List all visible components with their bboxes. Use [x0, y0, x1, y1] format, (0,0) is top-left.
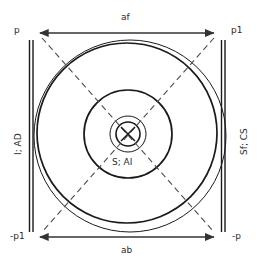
label-ab: ab — [121, 246, 132, 255]
label-negative-p: -p — [232, 232, 241, 241]
right-vertical-bar — [222, 40, 226, 232]
label-left-axis: I; AD — [14, 133, 23, 155]
label-af: af — [121, 13, 130, 22]
center-cross-icon — [121, 127, 135, 141]
label-center: S; AI — [112, 158, 132, 167]
diagram-graphics — [0, 0, 258, 266]
label-p1: p1 — [231, 26, 242, 35]
diagram-canvas: p p1 -p1 -p af ab I; AD Sf; CS S; AI — [0, 0, 258, 266]
left-vertical-bar — [30, 40, 34, 232]
label-right-axis: Sf; CS — [240, 128, 249, 155]
label-p: p — [14, 26, 20, 35]
label-negative-p1: -p1 — [10, 232, 25, 241]
